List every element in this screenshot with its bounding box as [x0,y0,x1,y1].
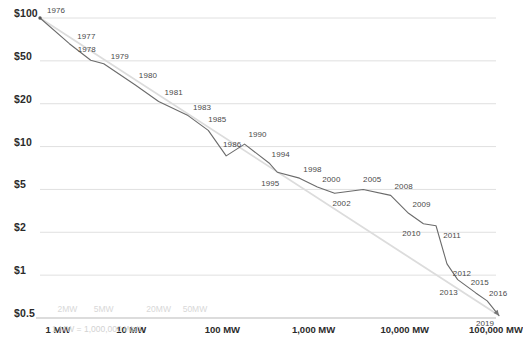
year-label-1990: 1990 [248,130,266,139]
x-axis-minor-20MW: 20MW [146,304,171,314]
y-axis-tick-2: $2 [14,221,26,233]
year-label-1986: 1986 [223,139,241,148]
year-label-2015: 2015 [471,277,489,286]
year-label-2011: 2011 [443,230,461,239]
year-label-1980: 1980 [139,70,157,79]
year-label-2005: 2005 [363,175,381,184]
year-label-1981: 1981 [165,88,183,97]
x-axis-minor-5MW: 5MW [94,304,114,314]
year-label-2002: 2002 [333,199,351,208]
footnote-prefix: 1 MW [52,324,74,334]
year-label-1977: 1977 [77,31,95,40]
y-axis-tick-100: $100 [14,7,38,19]
year-label-2016: 2016 [489,288,507,297]
y-axis-tick-10: $10 [14,136,32,148]
year-label-1978: 1978 [78,45,96,54]
x-axis-tick-1000MW: 1,000 MW [292,324,335,335]
year-label-1998: 1998 [303,165,321,174]
year-label-1994: 1994 [272,149,290,158]
y-axis-tick-50: $50 [14,50,32,62]
y-axis-tick-20: $20 [14,93,32,105]
year-label-2019: 2019 [476,318,494,327]
y-axis-tick-5: $5 [14,178,26,190]
year-label-2010: 2010 [402,228,420,237]
year-label-1979: 1979 [111,51,129,60]
unit-footnote: 1 MW = 1,000,000 Watt [52,324,141,334]
year-label-2012: 2012 [453,268,471,277]
x-axis-minor-2MW: 2MW [58,304,78,314]
year-label-2000: 2000 [322,175,340,184]
year-label-2008: 2008 [395,182,413,191]
y-axis-tick-05: $0.5 [14,307,35,319]
x-axis-tick-10000MW: 10,000 MW [381,324,430,335]
year-label-1985: 1985 [208,115,226,124]
learning-rate-trend-line [40,18,499,316]
footnote-text: = 1,000,000 Watt [77,324,142,334]
year-label-2009: 2009 [412,200,430,209]
y-axis-tick-1: $1 [14,264,26,276]
x-axis-minor-50MW: 50MW [183,304,208,314]
year-label-1995: 1995 [261,179,279,188]
x-axis-tick-100MW: 100 MW [205,324,240,335]
year-label-1983: 1983 [193,102,211,111]
year-label-2013: 2013 [440,287,458,296]
year-label-1976: 1976 [47,6,65,15]
